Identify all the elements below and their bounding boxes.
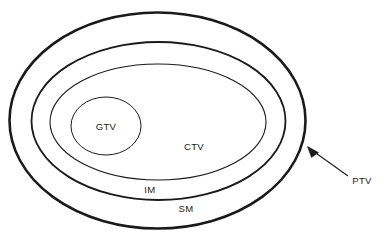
im-label: IM (144, 184, 155, 195)
volumes-canvas: GTV CTV IM SM PTV (0, 0, 384, 242)
sm-label: SM (178, 203, 193, 214)
target-volume-diagram: GTV CTV IM SM PTV (0, 0, 384, 242)
ctv-label: CTV (184, 141, 204, 152)
sm-ellipse (32, 42, 286, 200)
im-ctv-ellipse (50, 64, 266, 180)
gtv-label: GTV (96, 121, 117, 132)
ptv-leader-line (313, 151, 348, 176)
ptv-label: PTV (352, 175, 372, 186)
ptv-ellipse (10, 13, 306, 229)
ptv-arrowhead-icon (308, 147, 319, 158)
ptv-leader-arrow (308, 147, 349, 177)
